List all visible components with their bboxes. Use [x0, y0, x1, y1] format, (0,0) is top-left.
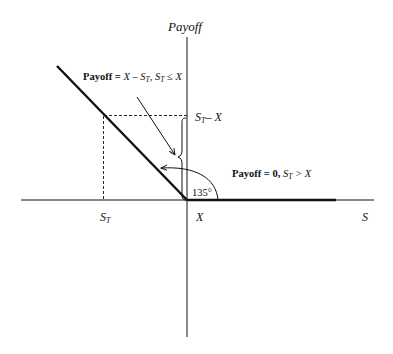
annotation-left: Payoff = X – ST, ST ≤ X	[83, 71, 182, 84]
y-axis-label: Payoff	[167, 19, 204, 34]
put-payoff-diagram: Payoff Payoff = X – ST, ST ≤ X ST– X Pay…	[0, 0, 393, 354]
angle-label: 135°	[192, 187, 212, 198]
annotation-left-expr1: X – S	[122, 71, 146, 82]
price-label-sub: T	[106, 216, 111, 225]
annotation-arrow	[137, 97, 175, 155]
difference-label-rest: – X	[204, 110, 222, 124]
strike-label: X	[195, 210, 204, 224]
annotation-right: Payoff = 0, ST > X	[232, 168, 312, 181]
payoff-line-sloped	[57, 66, 187, 200]
annotation-left-prefix: Payoff =	[83, 71, 123, 82]
annotation-left-expr2-rest: ≤ X	[164, 71, 182, 82]
annotation-right-expr-rest: > X	[292, 168, 311, 179]
annotation-right-prefix: Payoff = 0,	[232, 168, 283, 179]
price-label: ST	[100, 210, 111, 225]
x-axis-label: S	[362, 210, 368, 224]
brace-icon	[178, 118, 186, 200]
difference-label: ST– X	[195, 110, 222, 125]
